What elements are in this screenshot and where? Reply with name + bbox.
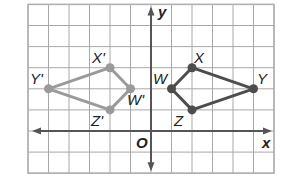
y-axis-arrow-down-icon bbox=[148, 162, 155, 171]
x-axis-arrow-left-icon bbox=[32, 128, 41, 135]
vertex-label-x-prime: X' bbox=[91, 49, 106, 66]
x-axis-label: x bbox=[261, 134, 271, 151]
vertex-label-w-prime: W' bbox=[127, 91, 145, 108]
vertex-label-w: W bbox=[153, 70, 169, 87]
vertex-label-y-prime: Y' bbox=[30, 70, 44, 87]
vertex-label-y: Y bbox=[257, 70, 268, 87]
coordinate-plane-diagram: y x O W X Y Z W' X' Y' Z' bbox=[0, 0, 287, 180]
vertex-label-z: Z bbox=[173, 112, 184, 129]
vertex-point bbox=[188, 105, 197, 114]
y-axis-arrow-up-icon bbox=[148, 6, 155, 15]
vertex-label-x: X bbox=[193, 49, 205, 66]
y-axis-label: y bbox=[157, 3, 167, 20]
origin-label: O bbox=[136, 134, 148, 151]
vertex-label-z-prime: Z' bbox=[90, 112, 104, 129]
vertex-point bbox=[106, 63, 115, 72]
vertex-point bbox=[106, 105, 115, 114]
vertex-point bbox=[44, 84, 53, 93]
vertex-point bbox=[167, 84, 176, 93]
